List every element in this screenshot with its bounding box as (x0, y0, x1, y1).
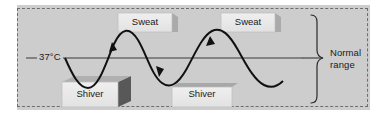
normal-range-label: Normal range (330, 47, 361, 71)
normal-range-bracket (303, 15, 323, 103)
sweat-label-left: Sweat (118, 16, 172, 27)
wave-arrow-up-2 (206, 36, 215, 46)
temperature-wave (65, 30, 283, 88)
baseline-temperature-label: 37°C (37, 52, 63, 63)
sweat-label-right: Sweat (221, 16, 275, 27)
normal-range-label-line1: Normal (330, 47, 361, 59)
thermoregulation-diagram: 37°C Normal range Sweat Sweat Shiver Shi… (0, 0, 376, 117)
normal-range-label-line2: range (330, 59, 361, 71)
wave-arrow-down-1 (156, 66, 164, 77)
wave-arrow-up-1 (109, 42, 117, 52)
shiver-label-left: Shiver (62, 88, 118, 99)
shiver-label-right: Shiver (172, 88, 232, 99)
